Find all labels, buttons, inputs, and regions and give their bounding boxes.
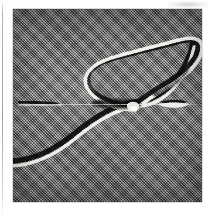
plate-vignette bbox=[13, 9, 202, 202]
left-scan-edge-artifact bbox=[2, 0, 3, 216]
page-canvas bbox=[0, 0, 214, 216]
top-right-smudge-artifact bbox=[168, 1, 208, 8]
micrograph-plate bbox=[13, 9, 202, 202]
